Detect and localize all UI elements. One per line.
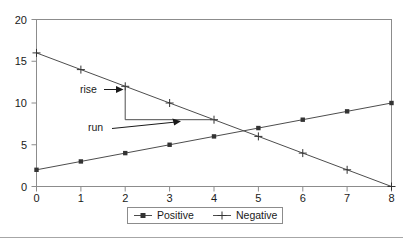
y-axis-label-20: 20 <box>15 14 27 26</box>
chart-figure: 0 5 10 15 20 0 1 2 3 4 5 6 7 8 <box>0 0 403 250</box>
legend: Positive Negative <box>128 208 283 224</box>
run-label: run <box>88 121 103 133</box>
x-axis-label-6: 6 <box>300 192 306 204</box>
y-axis-label-0: 0 <box>21 181 27 193</box>
x-axis-label-1: 1 <box>78 192 84 204</box>
y-axis-label-10: 10 <box>15 97 27 109</box>
rise-arrow-head <box>116 86 124 93</box>
y-axis-labels: 0 5 10 15 20 <box>15 14 27 193</box>
data-point-marker <box>77 66 85 74</box>
line-chart: 0 5 10 15 20 0 1 2 3 4 5 6 7 8 <box>0 0 403 250</box>
rise-label: rise <box>80 83 97 95</box>
data-point-marker <box>212 134 216 138</box>
x-axis-label-4: 4 <box>211 192 217 204</box>
data-point-marker <box>167 143 171 147</box>
y-axis-label-5: 5 <box>21 139 27 151</box>
x-axis-label-0: 0 <box>33 192 39 204</box>
data-point-marker <box>343 166 351 174</box>
rise-annotation: rise <box>80 83 124 95</box>
data-point-marker <box>254 132 262 140</box>
y-axis-label-15: 15 <box>15 55 27 67</box>
data-point-marker <box>345 109 349 113</box>
data-point-marker <box>256 126 260 130</box>
x-axis-label-3: 3 <box>167 192 173 204</box>
data-point-marker <box>34 168 38 172</box>
filled-square-icon <box>141 213 146 218</box>
x-axis-label-5: 5 <box>255 192 261 204</box>
x-axis-labels: 0 1 2 3 4 5 6 7 8 <box>33 192 394 204</box>
data-point-marker <box>123 151 127 155</box>
x-axis-label-2: 2 <box>122 192 128 204</box>
legend-label-negative: Negative <box>236 209 278 221</box>
plot-frame <box>37 20 392 187</box>
data-point-marker <box>33 49 41 57</box>
data-point-marker <box>299 149 307 157</box>
data-point-marker <box>79 159 83 163</box>
data-point-marker <box>389 101 393 105</box>
data-point-marker <box>301 118 305 122</box>
y-axis-ticks <box>32 20 37 187</box>
run-arrow-shaft <box>112 122 176 129</box>
data-point-marker <box>166 99 174 107</box>
data-point-marker <box>388 183 396 191</box>
x-axis-label-7: 7 <box>344 192 350 204</box>
series-positive <box>34 101 393 172</box>
run-annotation: run <box>88 118 181 133</box>
x-axis-label-8: 8 <box>388 192 394 204</box>
legend-label-positive: Positive <box>157 209 194 221</box>
